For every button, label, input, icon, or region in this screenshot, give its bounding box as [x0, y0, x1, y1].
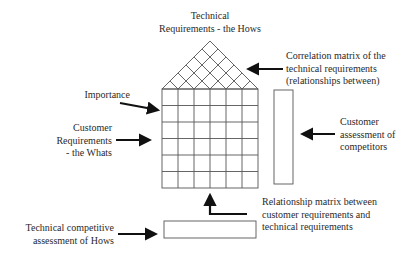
label-line: Customer: [30, 122, 112, 135]
customer-assessment-box: [274, 90, 293, 184]
label-line: technical requirements: [262, 221, 377, 234]
label-line: (relationships between): [286, 75, 386, 88]
title-line-1: Technical: [140, 10, 280, 23]
arrow-relationship: [210, 195, 247, 214]
label-line: Importance: [60, 89, 130, 102]
arrow-importance: [120, 103, 158, 110]
label-line: assessment of: [340, 129, 395, 142]
relationship-grid: [162, 89, 258, 188]
label-correlation-matrix: Correlation matrix of the technical requ…: [286, 50, 386, 88]
label-customer-assessment: Customer assessment of competitors: [340, 116, 395, 154]
label-line: assessment of Hows: [0, 235, 114, 248]
label-line: technical requirements: [286, 63, 386, 76]
label-customer-requirements: Customer Requirements - the Whats: [30, 122, 112, 160]
title-line-2: Requirements - the Hows: [140, 23, 280, 36]
label-line: competitors: [340, 141, 395, 154]
label-line: customer requirements and: [262, 209, 377, 222]
title-technical-requirements: Technical Requirements - the Hows: [140, 10, 280, 35]
label-technical-competitive: Technical competitive assessment of Hows: [0, 222, 114, 247]
label-line: Relationship matrix between: [262, 196, 377, 209]
label-line: Technical competitive: [0, 222, 114, 235]
label-line: Correlation matrix of the: [286, 50, 386, 63]
label-line: Customer: [340, 116, 395, 129]
correlation-roof: [162, 41, 258, 89]
label-importance: Importance: [60, 89, 130, 102]
label-relationship-matrix: Relationship matrix between customer req…: [262, 196, 377, 234]
technical-assessment-box: [164, 221, 256, 238]
label-line: - the Whats: [30, 147, 112, 160]
label-line: Requirements: [30, 135, 112, 148]
